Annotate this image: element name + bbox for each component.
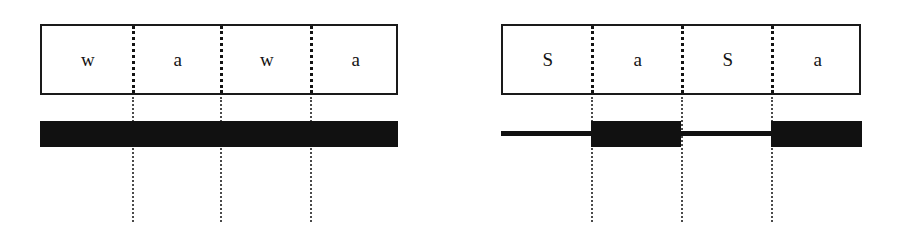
boundary-line-below-3 [310,97,312,222]
boundary-line-inbox-1 [591,26,594,93]
boundary-line-inbox-2 [681,26,684,93]
segment-cell-s-2: S [683,26,773,93]
segmentation-box-left: w a w a [40,24,398,95]
boundary-line-inbox-3 [310,26,313,93]
segment-label: w [81,49,95,71]
segment-cell-a-1: a [134,26,222,93]
waveform-block-continuous [40,121,398,147]
segment-label: a [174,49,183,71]
segment-label: S [542,49,553,71]
boundary-line-inbox-1 [132,26,135,93]
boundary-line-inbox-2 [220,26,223,93]
waveform-line-s-1 [501,131,592,136]
segment-label: w [260,49,274,71]
boundary-line-inbox-3 [771,26,774,93]
waveform-block-a-1 [591,121,681,147]
segment-cell-a-1: a [593,26,683,93]
segment-cell-a-2: a [312,26,400,93]
boundary-line-below-2 [681,97,683,222]
boundary-line-below-2 [220,97,222,222]
segment-label: a [634,49,643,71]
segment-label: S [722,49,733,71]
segment-label: a [814,49,823,71]
segment-cell-s-1: S [503,26,593,93]
waveform-block-a-2 [771,121,862,147]
phonetic-segmentation-figure: w a w a S a [0,0,897,245]
boundary-line-below-3 [771,97,773,222]
segment-cell-w-1: w [42,26,134,93]
segment-cell-a-2: a [773,26,863,93]
segment-label: a [352,49,361,71]
boundary-line-below-1 [132,97,134,222]
segment-cell-w-2: w [222,26,312,93]
boundary-line-below-1 [591,97,593,222]
waveform-line-s-2 [681,131,772,136]
